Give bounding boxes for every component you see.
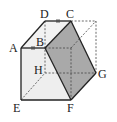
vertex-label-h: H: [34, 63, 43, 77]
vertex-label-g: G: [98, 67, 107, 81]
vertex-label-b: B: [36, 35, 44, 49]
vertex-label-c: C: [66, 7, 74, 21]
vertex-label-d: D: [40, 7, 49, 21]
vertex-label-a: A: [9, 41, 18, 55]
vertex-label-f: F: [67, 101, 74, 115]
vertex-label-e: E: [13, 101, 20, 115]
cube-diagram: A B C D E F G H: [0, 0, 117, 122]
